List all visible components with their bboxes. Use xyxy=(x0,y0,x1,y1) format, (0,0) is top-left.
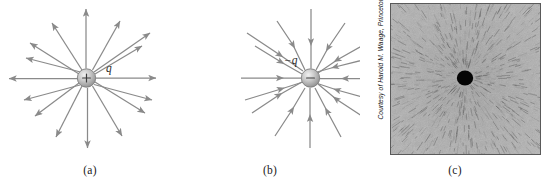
photograph-image xyxy=(391,4,540,154)
negative-charge-sphere xyxy=(301,69,319,87)
photo-credit-text: Courtesy of Harold M. Waage, Princeton U… xyxy=(377,0,384,120)
positive-charge-sphere xyxy=(77,69,95,87)
figure-electric-field-lines: q (a) xyxy=(0,0,550,178)
panel-a-positive-charge: q (a) xyxy=(0,0,180,178)
field-diagram-positive xyxy=(0,0,180,178)
charged-conductor-dot xyxy=(457,70,473,85)
grass-seed-field-pattern xyxy=(391,4,540,154)
panel-b-caption: (b) xyxy=(180,164,360,176)
panel-c-caption: (c) xyxy=(360,164,550,176)
panel-b-negative-charge: −q (b) xyxy=(180,0,360,178)
panel-a-caption: (a) xyxy=(0,164,180,176)
panel-c-photograph: Courtesy of Harold M. Waage, Princeton U… xyxy=(360,0,550,178)
field-diagram-negative xyxy=(180,0,360,178)
charge-label-negative-q: −q xyxy=(284,54,298,66)
charge-label-q: q xyxy=(106,62,112,74)
field-lines-inward xyxy=(241,9,360,148)
photograph-frame xyxy=(390,3,541,155)
